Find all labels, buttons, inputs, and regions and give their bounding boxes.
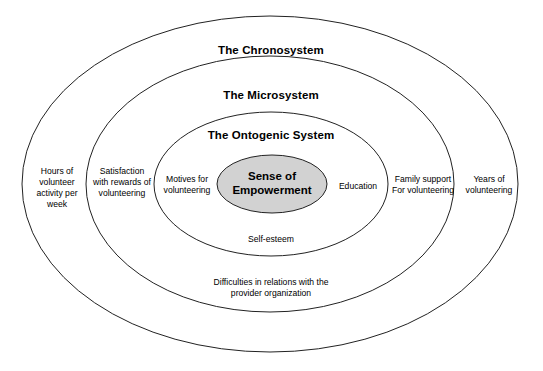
satisfaction-with-rewards-label: Satisfaction with rewards of volunteerin… [88,166,156,199]
ontogenic-system-title: The Ontogenic System [166,128,376,143]
years-of-volunteering-label: Years of volunteering [458,174,520,196]
education-label: Education [330,181,386,192]
self-esteem-label: Self-esteem [226,234,316,245]
family-support-label: Family support For volunteering [389,174,457,196]
motives-for-volunteering-label: Motives for volunteering [157,174,217,196]
hours-of-volunteer-activity-label: Hours of volunteer activity per week [26,166,88,210]
sense-of-empowerment-label: Sense of Empowerment [217,169,327,198]
difficulties-in-relations-label: Difficulties in relations with the provi… [171,277,371,299]
ecological-systems-diagram: The Chronosystem The Microsystem The Ont… [0,0,543,371]
chronosystem-title: The Chronosystem [171,43,371,58]
microsystem-title: The Microsystem [171,88,371,103]
